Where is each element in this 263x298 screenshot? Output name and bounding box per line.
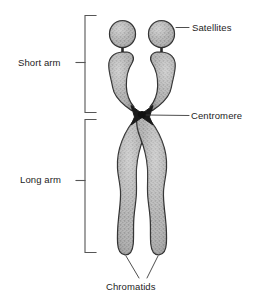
satellite-left (110, 21, 136, 48)
label-chromatids: Chromatids (106, 281, 156, 292)
label-long-arm: Long arm (20, 174, 61, 185)
label-satellites: Satellites (192, 22, 232, 33)
label-short-arm: Short arm (18, 57, 61, 68)
satellite-right (149, 21, 175, 48)
label-centromere: Centromere (191, 110, 242, 121)
centromere-leader (146, 115, 189, 116)
chromosome-diagram (0, 0, 263, 298)
